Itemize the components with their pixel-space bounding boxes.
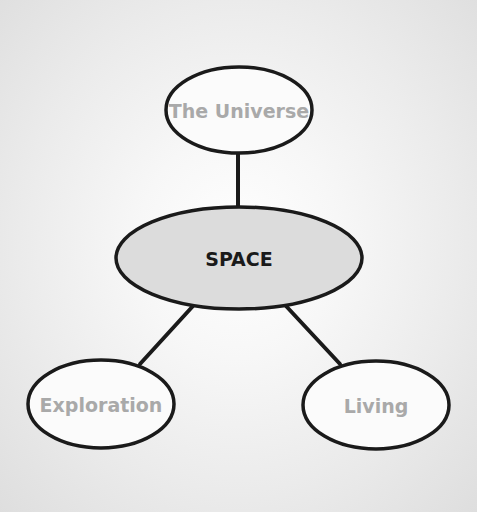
- edge-space-exploration: [140, 306, 193, 364]
- edge-space-living: [286, 306, 340, 364]
- node-the-universe[interactable]: The Universe: [166, 67, 312, 153]
- node-label-space: SPACE: [205, 248, 273, 270]
- node-label-living: Living: [344, 395, 409, 417]
- node-living[interactable]: Living: [303, 361, 449, 449]
- node-label-exploration: Exploration: [40, 394, 163, 416]
- node-space-center[interactable]: SPACE: [116, 207, 362, 309]
- concept-map: The Universe SPACE Exploration Living: [0, 0, 477, 512]
- node-exploration[interactable]: Exploration: [28, 360, 174, 448]
- node-label-universe: The Universe: [169, 100, 309, 122]
